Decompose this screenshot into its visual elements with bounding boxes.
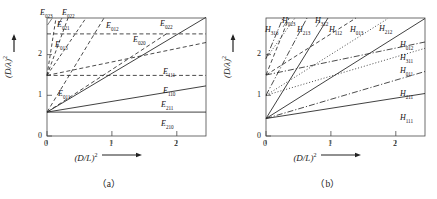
mode-label-H013: H013 [350,25,363,36]
x-tick-2-a: 2 [174,139,178,148]
mode-label-E020: E020 [133,35,145,46]
x-axis-label-b: (D/L)2 [219,152,437,163]
mode-label-H312: H312 [315,16,328,27]
mode-label-H111: H111 [400,113,413,124]
mode-label-E012: E012 [106,21,118,32]
y-axis-arrow-a [12,34,17,52]
x-axis-arrow-b [319,151,363,159]
y-axis-label-b: (D/λ)2 [221,56,232,78]
panel-b-caption: （b） [219,176,437,190]
mode-label-H213: H213 [297,25,310,36]
mode-label-E211: E211 [161,100,173,111]
x-tick-0-b: 0 [263,139,267,148]
x-tick-2-b: 2 [393,139,397,148]
mode-label-H212: H212 [379,24,392,35]
mode-label-E110: E110 [163,86,175,97]
x-tick-0-a: 0 [44,139,48,148]
mode-label-H112: H112 [329,25,342,36]
panel-b: (D/λ)2 (D/L)2 0 1 2 0 1 2 H313 H023 H213… [219,0,437,199]
plot-frame-a [47,18,206,136]
y-axis-arrow-b [231,34,236,52]
y-tick-2-b: 2 [257,49,261,58]
y-tick-0-b: 0 [257,131,261,140]
y-tick-0-a: 0 [38,131,42,140]
mode-label-E111: E111 [163,67,175,78]
mode-label-H012: H012 [400,40,413,51]
x-tick-1-a: 1 [109,139,113,148]
mode-label-E022b: E022 [160,19,172,30]
x-tick-1-b: 1 [328,139,332,148]
mode-label-E013: E013 [55,40,67,51]
mode-chart-figure: (D/λ)2 (D/L)2 0 1 2 0 1 2 E023E023 E022 … [0,0,437,199]
mode-label-H311: H311 [400,53,413,64]
panel-a: (D/λ)2 (D/L)2 0 1 2 0 1 2 E023E023 E022 … [0,0,218,199]
mode-label-H313: H313 [265,25,278,36]
mode-label-E210: E210 [161,119,173,130]
panel-a-caption: （a） [0,176,218,190]
x-axis-label-a: (D/L)2 [0,152,218,163]
y-tick-1-a: 1 [38,90,42,99]
mode-label-E022: E022 [62,8,74,19]
y-axis-label-a: (D/λ)2 [2,56,13,78]
mode-label-H211: H211 [400,89,413,100]
x-axis-arrow-a [100,151,144,159]
mode-label-H023: H023 [282,16,295,27]
mode-label-H011: H011 [400,66,413,77]
y-tick-1-b: 1 [257,90,261,99]
mode-label-E023: E023E023 [40,8,52,19]
mode-label-E011: E011 [58,89,70,100]
mode-label-E021: E021 [57,20,69,31]
y-tick-2-a: 2 [38,49,42,58]
